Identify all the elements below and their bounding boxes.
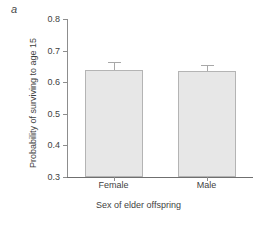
bar [85, 70, 143, 177]
y-tick-mark [63, 51, 67, 52]
y-tick-label: 0.7 [47, 46, 60, 55]
y-axis-line [67, 19, 68, 177]
x-axis-line [67, 177, 253, 178]
y-tick-mark [63, 145, 67, 146]
error-bar-cap [201, 65, 214, 66]
plot-area: 0.30.40.50.60.70.8 FemaleMale [67, 19, 253, 177]
y-tick-mark [63, 19, 67, 20]
x-axis-title: Sex of elder offspring [0, 200, 277, 210]
error-bar-cap [108, 62, 121, 63]
y-tick-label: 0.3 [47, 173, 60, 182]
x-tick-label: Female [98, 180, 128, 190]
panel-letter-label: a [11, 4, 17, 15]
y-tick-label: 0.5 [47, 109, 60, 118]
x-tick-label: Male [197, 180, 217, 190]
y-tick-mark [63, 82, 67, 83]
bar [178, 71, 236, 177]
error-bar-stem [114, 62, 115, 70]
y-axis-title: Probability of surviving to age 15 [28, 18, 38, 188]
y-tick-label: 0.6 [47, 78, 60, 87]
y-tick-label: 0.8 [47, 15, 60, 24]
figure-panel: a Probability of surviving to age 15 0.3… [0, 0, 277, 227]
y-tick-mark [63, 114, 67, 115]
y-tick-mark [63, 177, 67, 178]
y-tick-label: 0.4 [47, 141, 60, 150]
